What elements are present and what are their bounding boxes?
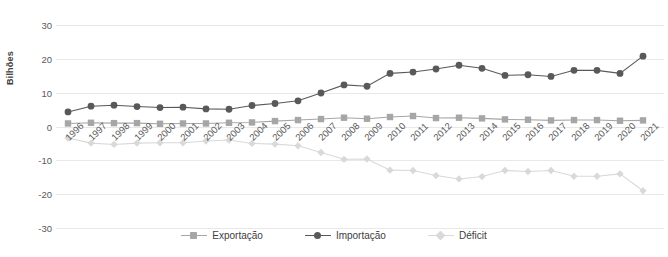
y-tick-label: 20 bbox=[18, 53, 52, 64]
data-point bbox=[88, 103, 95, 110]
data-point bbox=[547, 167, 554, 174]
data-point bbox=[617, 118, 623, 124]
series-line bbox=[68, 56, 643, 112]
plot-area: 1996199719981999200020012002200320042005… bbox=[56, 0, 664, 257]
legend-label: Déficit bbox=[459, 230, 487, 241]
data-point bbox=[456, 115, 462, 121]
data-point bbox=[318, 116, 324, 122]
data-point bbox=[318, 90, 325, 97]
data-point bbox=[525, 71, 532, 78]
data-point bbox=[594, 67, 601, 74]
data-point bbox=[479, 65, 486, 72]
series-importao bbox=[65, 53, 647, 116]
data-point bbox=[594, 117, 600, 123]
y-tick-label: 10 bbox=[18, 87, 52, 98]
data-point bbox=[410, 113, 416, 119]
data-point bbox=[548, 117, 554, 123]
series-line bbox=[68, 138, 643, 191]
legend-marker-icon bbox=[181, 231, 207, 241]
data-point bbox=[433, 66, 440, 73]
data-point bbox=[409, 167, 416, 174]
data-point bbox=[548, 73, 555, 80]
data-point bbox=[272, 100, 279, 107]
legend-label: Exportação bbox=[212, 230, 263, 241]
data-point bbox=[226, 120, 232, 126]
data-point bbox=[65, 120, 71, 126]
data-point bbox=[570, 173, 577, 180]
chart-container: Bilhões 3020100-10-20-30 199619971998199… bbox=[0, 0, 668, 257]
data-point bbox=[640, 53, 647, 60]
data-point bbox=[134, 103, 141, 110]
data-point bbox=[134, 120, 140, 126]
data-point bbox=[180, 104, 187, 111]
data-point bbox=[65, 109, 72, 116]
y-tick-label: 30 bbox=[18, 20, 52, 31]
data-point bbox=[593, 173, 600, 180]
data-point bbox=[387, 114, 393, 120]
data-point bbox=[363, 155, 370, 162]
data-point bbox=[524, 168, 531, 175]
data-point bbox=[180, 120, 186, 126]
chart-legend: ExportaçãoImportaçãoDéficit bbox=[0, 230, 668, 241]
legend-marker-icon bbox=[305, 231, 331, 241]
data-point bbox=[249, 102, 256, 109]
data-point bbox=[341, 115, 347, 121]
data-point bbox=[478, 173, 485, 180]
y-tick-label: 0 bbox=[18, 121, 52, 132]
data-point bbox=[295, 117, 301, 123]
data-point bbox=[295, 97, 302, 104]
data-point bbox=[502, 72, 509, 79]
series-dficit bbox=[64, 134, 646, 194]
legend-item-exportao[interactable]: Exportação bbox=[181, 230, 263, 241]
data-point bbox=[456, 62, 463, 69]
data-point bbox=[364, 116, 370, 122]
data-point bbox=[410, 69, 417, 76]
data-point bbox=[203, 120, 209, 126]
data-point bbox=[386, 166, 393, 173]
data-point bbox=[617, 70, 624, 77]
data-point bbox=[249, 119, 255, 125]
data-point bbox=[111, 102, 118, 109]
data-point bbox=[455, 175, 462, 182]
data-point bbox=[294, 142, 301, 149]
data-point bbox=[571, 117, 577, 123]
data-point bbox=[157, 104, 164, 111]
data-point bbox=[203, 106, 210, 113]
data-point bbox=[340, 156, 347, 163]
legend-marker-icon bbox=[428, 231, 454, 241]
data-point bbox=[88, 120, 94, 126]
data-point bbox=[111, 120, 117, 126]
data-point bbox=[433, 115, 439, 121]
data-point bbox=[432, 172, 439, 179]
y-tick-label: -20 bbox=[18, 189, 52, 200]
data-point bbox=[364, 83, 371, 90]
data-point bbox=[226, 106, 233, 113]
data-point bbox=[640, 117, 646, 123]
data-point bbox=[341, 81, 348, 88]
data-point bbox=[479, 115, 485, 121]
data-point bbox=[317, 149, 324, 156]
data-point bbox=[387, 70, 394, 77]
data-point bbox=[502, 116, 508, 122]
data-point bbox=[501, 167, 508, 174]
data-point bbox=[571, 67, 578, 74]
y-tick-label: -10 bbox=[18, 155, 52, 166]
legend-item-importao[interactable]: Importação bbox=[305, 230, 386, 241]
legend-item-dficit[interactable]: Déficit bbox=[428, 230, 487, 241]
legend-label: Importação bbox=[336, 230, 386, 241]
data-point bbox=[272, 118, 278, 124]
data-point bbox=[525, 117, 531, 123]
y-axis-tick-labels: 3020100-10-20-30 bbox=[16, 0, 52, 257]
